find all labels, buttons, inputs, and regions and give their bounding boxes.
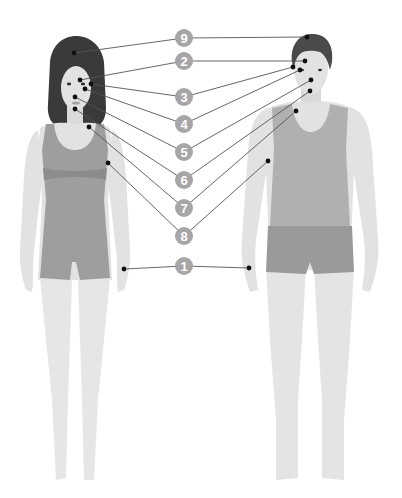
badge-4: 4 <box>175 115 193 133</box>
point-dot-6-female <box>73 107 78 112</box>
male-figure <box>241 34 378 480</box>
point-dot-7-female <box>87 125 92 130</box>
badge-number: 6 <box>180 173 187 188</box>
leader-line-3-male <box>184 67 293 97</box>
point-dot-3-male <box>291 65 296 70</box>
badge-number: 2 <box>180 54 187 69</box>
point-dot-1-male <box>247 266 252 271</box>
badge-9: 9 <box>175 29 193 47</box>
leader-line-1-female <box>124 266 184 269</box>
badge-2: 2 <box>175 52 193 70</box>
male-eye-right <box>318 69 322 72</box>
female-lips <box>72 101 80 104</box>
body-diagram: 923456781 <box>0 0 402 498</box>
male-right-arm <box>352 108 379 292</box>
female-eye-left <box>67 83 71 86</box>
badge-number: 4 <box>180 117 188 132</box>
point-dot-5-female <box>73 95 78 100</box>
female-right-leg <box>78 278 110 480</box>
badge-6: 6 <box>175 171 193 189</box>
male-left-leg <box>266 268 306 480</box>
point-dot-8-female <box>106 161 111 166</box>
point-dot-3-female <box>89 82 94 87</box>
badge-number: 3 <box>180 90 187 105</box>
female-figure <box>20 36 130 480</box>
badge-5: 5 <box>175 143 193 161</box>
badge-number: 8 <box>180 229 187 244</box>
point-dot-8-male <box>266 159 271 164</box>
male-left-arm <box>241 108 268 292</box>
male-right-leg <box>314 268 354 480</box>
point-dot-4-male <box>298 68 303 73</box>
female-eye-right <box>81 83 85 86</box>
leader-line-1-male <box>184 266 249 268</box>
badge-3: 3 <box>175 88 193 106</box>
point-dot-5-male <box>309 78 314 83</box>
point-dot-2-male <box>303 59 308 64</box>
point-dot-2-female <box>78 78 83 83</box>
point-dot-9-female <box>72 51 77 56</box>
point-dot-7-male <box>294 109 299 114</box>
point-dot-4-female <box>83 87 88 92</box>
badge-1: 1 <box>175 257 193 275</box>
point-dot-9-male <box>305 35 310 40</box>
leader-line-9-male <box>184 37 307 38</box>
number-badges: 923456781 <box>175 29 193 275</box>
badge-8: 8 <box>175 227 193 245</box>
female-left-leg <box>40 278 72 480</box>
badge-7: 7 <box>175 199 193 217</box>
badge-number: 7 <box>180 201 187 216</box>
point-dot-1-female <box>122 267 127 272</box>
badge-number: 9 <box>180 31 187 46</box>
badge-number: 1 <box>180 259 187 274</box>
badge-number: 5 <box>180 145 187 160</box>
point-dot-6-male <box>308 89 313 94</box>
